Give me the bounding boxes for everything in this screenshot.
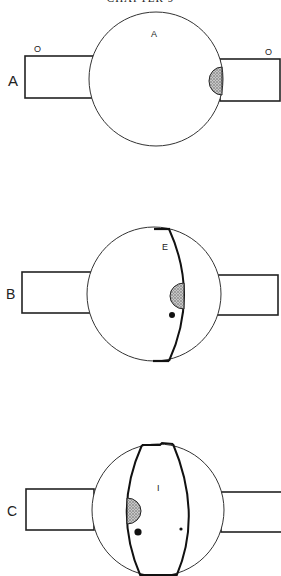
inner-label-a: A <box>151 29 157 39</box>
panel-label-a: A <box>8 72 18 89</box>
figure-b: B E <box>6 227 278 361</box>
right-rectangle <box>221 492 281 532</box>
left-rectangle <box>26 489 94 530</box>
inner-label-i: I <box>157 483 160 493</box>
globe-circle <box>92 444 224 576</box>
figure-c: C I <box>7 443 281 576</box>
diagram-canvas: A A O O B E C I <box>0 0 281 576</box>
dot <box>169 312 175 318</box>
globe-circle <box>87 227 221 361</box>
large-dot <box>134 528 141 535</box>
inner-label-e: E <box>162 242 168 252</box>
panel-label-c: C <box>7 503 17 519</box>
left-rectangle <box>25 56 93 98</box>
right-rectangle <box>220 59 280 101</box>
figure-a: A A O O <box>8 12 280 146</box>
left-rect-label-o: O <box>34 44 41 54</box>
right-rectangle <box>217 275 278 315</box>
small-dot <box>179 527 182 530</box>
panel-label-b: B <box>6 286 15 302</box>
right-rect-label-o: O <box>265 47 272 57</box>
left-rectangle <box>22 272 91 313</box>
